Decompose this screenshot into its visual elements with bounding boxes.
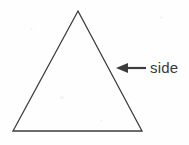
side-label: side — [150, 58, 178, 77]
triangle-outline — [13, 11, 142, 131]
side-arrow-group — [116, 63, 146, 73]
left-arrow-icon — [116, 63, 128, 73]
diagram-canvas: side — [0, 0, 189, 145]
